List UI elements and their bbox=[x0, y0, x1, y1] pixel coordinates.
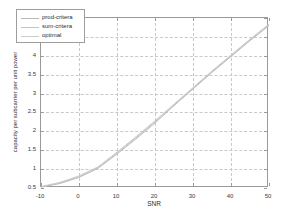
legend-line-sample bbox=[20, 31, 40, 40]
legend-label: prod-critera bbox=[42, 13, 73, 22]
y-tickmark bbox=[41, 188, 44, 189]
x-tickmark bbox=[269, 18, 270, 21]
x-tickmark bbox=[269, 183, 270, 186]
legend-line-sample bbox=[20, 13, 40, 22]
figure-canvas: -1001020304050 0.511.522.533.544.55 SNR … bbox=[0, 0, 286, 217]
x-tick-label: 30 bbox=[189, 193, 196, 199]
legend-label: sum-critera bbox=[42, 22, 72, 31]
legend-entry: optimal bbox=[17, 31, 84, 40]
y-tickmark bbox=[264, 188, 267, 189]
legend-line-sample bbox=[20, 22, 40, 31]
legend-entry: sum-critera bbox=[17, 22, 84, 31]
x-tick-label: 40 bbox=[227, 193, 234, 199]
y-axis-label-text: capacity per subcarrier per unit power bbox=[12, 52, 18, 152]
x-tick-label: 0 bbox=[76, 193, 79, 199]
x-tick-label: -10 bbox=[36, 193, 45, 199]
data-curves bbox=[41, 18, 269, 188]
x-tick-label: 10 bbox=[113, 193, 120, 199]
x-tick-label: 50 bbox=[265, 193, 272, 199]
legend-label: optimal bbox=[42, 31, 61, 40]
x-tick-label: 20 bbox=[151, 193, 158, 199]
series-line bbox=[41, 24, 269, 186]
series-line bbox=[41, 26, 269, 188]
legend-box: prod-criterasum-criteraoptimal bbox=[16, 9, 85, 43]
series-line bbox=[41, 25, 269, 187]
legend-entry: prod-critera bbox=[17, 13, 84, 22]
x-axis-label: SNR bbox=[40, 201, 268, 208]
